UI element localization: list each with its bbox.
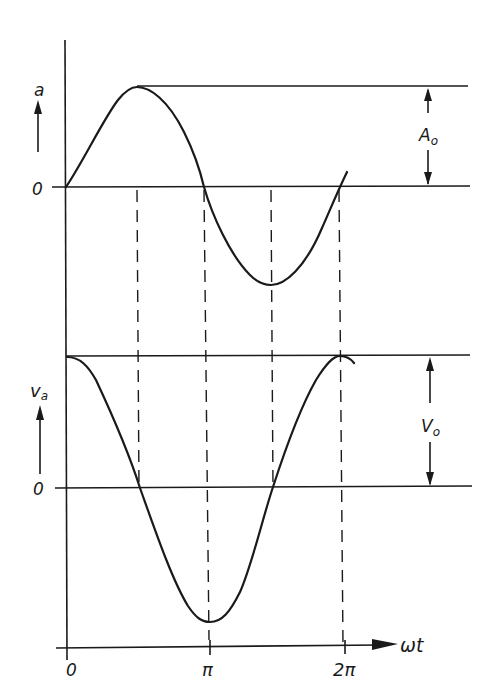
y-label-a: a <box>34 80 44 100</box>
arrow-up-icon <box>34 100 42 114</box>
arrow-down-icon <box>426 472 434 486</box>
arrow-right-icon <box>372 639 398 650</box>
bottom-plot: Vo va 0 <box>30 355 472 622</box>
x-axis-label: ωt <box>400 634 425 656</box>
zero-label-top: 0 <box>32 179 43 199</box>
amplitude-label-a0: Ao <box>418 125 438 148</box>
bottom-zero-line <box>55 486 472 488</box>
guide-pi-half <box>137 190 139 490</box>
tick-label-2pi: 2π <box>333 659 356 680</box>
bottom-peak-line <box>66 355 470 356</box>
guide-pi <box>204 190 209 640</box>
amplitude-label-v0: Vo <box>421 416 440 439</box>
arrow-up-icon <box>424 88 432 101</box>
tick-label-0: 0 <box>66 660 77 680</box>
velocity-curve <box>67 356 354 622</box>
zero-label-bottom: 0 <box>33 479 44 499</box>
arrow-up-icon <box>426 357 434 371</box>
x-axis: ωt 0 π 2π <box>56 634 425 680</box>
arrow-up-icon <box>36 405 44 420</box>
guide-2pi <box>339 190 343 645</box>
sine-cosine-diagram: Ao a 0 Vo va 0 ωt 0 π 2π <box>0 0 492 700</box>
top-plot: Ao a 0 <box>32 80 470 285</box>
arrow-down-icon <box>424 172 432 185</box>
x-axis-line <box>56 645 380 648</box>
vertical-axis <box>65 40 67 660</box>
y-label-va: va <box>30 380 48 403</box>
tick-label-pi: π <box>202 659 214 680</box>
guide-3pi-half <box>271 190 273 490</box>
top-zero-line <box>52 186 470 187</box>
